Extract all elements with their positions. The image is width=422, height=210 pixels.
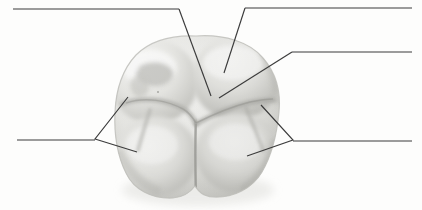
- label-line-left-bracket[interactable]: [17, 97, 137, 152]
- label-line-middle-right[interactable]: [219, 52, 412, 98]
- leader-middle-right: [219, 52, 292, 98]
- leader-top-left: [179, 9, 211, 96]
- label-line-right-bracket[interactable]: [247, 105, 412, 156]
- leader-bracket-left: [95, 97, 137, 152]
- anatomy-figure: [0, 0, 422, 210]
- leader-bracket-right: [247, 105, 293, 156]
- label-line-top-right[interactable]: [224, 8, 412, 73]
- leader-top-right: [224, 8, 245, 73]
- label-leader-lines: [0, 0, 422, 210]
- label-line-top-left[interactable]: [13, 9, 211, 96]
